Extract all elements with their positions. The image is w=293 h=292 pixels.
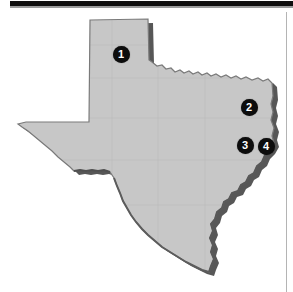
map-marker-label: 1 (118, 49, 124, 60)
map-marker-label: 3 (242, 140, 248, 151)
map-marker-4[interactable]: 4 (258, 138, 275, 155)
map-marker-2[interactable]: 2 (241, 99, 258, 116)
figure-page: 1234 (0, 0, 293, 292)
map-marker-1[interactable]: 1 (113, 46, 130, 63)
map-marker-label: 4 (263, 141, 269, 152)
map-marker-label: 2 (246, 102, 252, 113)
map-marker-3[interactable]: 3 (237, 137, 254, 154)
